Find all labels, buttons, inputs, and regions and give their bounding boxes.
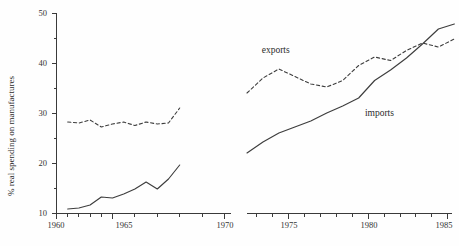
y-axis-title: % real spending on manufactures [6, 76, 16, 196]
x-axis-minor-ticks-right [257, 214, 432, 218]
x-axis-tick-labels: 1960 1965 1970 1975 1980 1985 [48, 220, 453, 230]
y-axis-tick-labels: 50 40 30 20 10 [39, 8, 48, 218]
y-tick-label: 30 [39, 108, 48, 118]
series-annotation-exports: exports [262, 45, 290, 55]
y-tick-label: 10 [39, 208, 48, 218]
y-axis-major-ticks [52, 13, 57, 213]
x-tick-label: 1965 [116, 220, 133, 230]
x-tick-label: 1960 [48, 220, 65, 230]
x-tick-label: 1975 [281, 220, 298, 230]
x-tick-label: 1970 [217, 220, 234, 230]
series-line-imports [247, 24, 454, 153]
x-axis-major-ticks [57, 214, 448, 220]
x-tick-label: 1985 [436, 220, 453, 230]
series-line-imports [68, 165, 180, 209]
chart-figure: % real spending on manufactures 50 40 30… [0, 0, 459, 246]
y-tick-label: 20 [39, 158, 48, 168]
series-annotation-imports: imports [365, 108, 394, 118]
y-tick-label: 40 [39, 58, 48, 68]
line-chart: % real spending on manufactures 50 40 30… [0, 0, 459, 246]
series-line-exports [68, 108, 180, 127]
x-tick-label: 1980 [361, 220, 378, 230]
x-axis-minor-ticks-left [68, 214, 202, 218]
y-tick-label: 50 [39, 8, 48, 18]
